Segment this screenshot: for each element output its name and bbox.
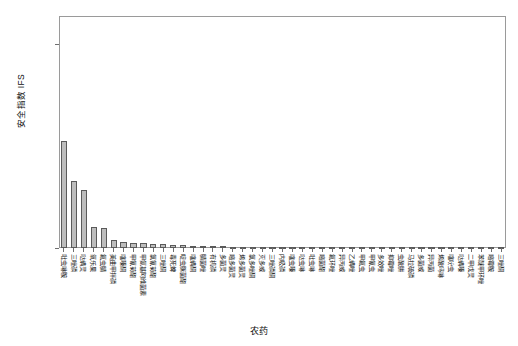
x-axis-tick-label: 氧乐果 [90, 254, 96, 272]
x-axis-tick-label: 氟虫腈 [100, 254, 106, 272]
x-axis-tick-mark [203, 248, 204, 252]
x-axis-tick-layer: 吡虫啉胺三唑磷哒螨灵氧乐果氟虫腈美曲甲拌磷噻嗪酮甲氰菊酯甲氨基阿维菌素氯氰菊酯三… [0, 0, 518, 346]
x-axis-tick-mark [103, 248, 104, 252]
chart-canvas: 0.00000.0005 安全指数 IFS 吡虫啉胺三唑磷哒螨灵氧乐果氟虫腈美曲… [0, 0, 518, 346]
x-axis-tick-mark [113, 248, 114, 252]
x-axis-tick-label: 氯多唑酮 [249, 254, 255, 278]
x-axis-tick-label: 哒螨嗪 [458, 254, 464, 272]
x-axis-tick-mark [352, 248, 353, 252]
x-axis-tick-label: 三唑酮 [160, 254, 166, 272]
x-axis-tick-mark [441, 248, 442, 252]
x-axis-tick-label: 多效唑 [378, 254, 384, 272]
x-axis-tick-label: 哒螨灵 [80, 254, 86, 272]
x-axis-tick-label: 甲氨基阿维菌素 [140, 254, 146, 296]
x-axis-tick-label: 苯醚甲环唑 [478, 254, 484, 284]
x-axis-tick-label: 灭多威 [259, 254, 265, 272]
x-axis-tick-mark [262, 248, 263, 252]
x-axis-tick-label: 多菌威 [418, 254, 424, 272]
x-axis-tick-label: 三唑磷酮 [269, 254, 275, 278]
y-axis-tick-mark [55, 44, 59, 45]
x-axis-tick-mark [252, 248, 253, 252]
x-axis-tick-label: 异丙威 [338, 254, 344, 272]
x-axis-tick-label: 吡虫啉 [309, 254, 315, 272]
x-axis-tick-mark [242, 248, 243, 252]
y-axis-tick-mark [55, 248, 59, 249]
x-axis-tick-label: 内吸磷 [279, 254, 285, 272]
x-axis-tick-label: 嘧多菌灵 [229, 254, 235, 278]
x-axis-tick-mark [193, 248, 194, 252]
x-axis-tick-label: 氟环唑 [329, 254, 335, 272]
x-axis-tick-label: 噻虫嗪 [289, 254, 295, 272]
x-axis-tick-label: 氯氰菊酯 [150, 254, 156, 278]
x-axis-tick-label: 马拉硫磷 [408, 254, 414, 278]
x-axis-tick-label: 多菌灵 [219, 254, 225, 272]
x-axis-tick-mark [302, 248, 303, 252]
x-axis-tick-label: 噻吩虫 [448, 254, 454, 272]
x-axis-tick-label: 烯多菌灵 [239, 254, 245, 278]
x-axis-tick-label: 腈菌唑 [199, 254, 205, 272]
x-axis-tick-mark [421, 248, 422, 252]
x-axis-tick-mark [481, 248, 482, 252]
x-axis-tick-label: 甲氟虫 [358, 254, 364, 272]
x-axis-tick-mark [63, 248, 64, 252]
x-axis-tick-mark [332, 248, 333, 252]
x-axis-tick-label: 异丙菌 [428, 254, 434, 272]
x-axis-tick-mark [371, 248, 372, 252]
x-axis-tick-mark [73, 248, 74, 252]
x-axis-tick-label: 啶虫脒菌酯 [180, 254, 186, 284]
x-axis-tick-label: 三唑酮 [497, 254, 503, 272]
x-axis-tick-mark [501, 248, 502, 252]
x-axis-tick-label: 虫酰肼 [398, 254, 404, 272]
x-axis-tick-mark [361, 248, 362, 252]
x-axis-tick-label: 美曲甲拌磷 [110, 254, 116, 284]
x-axis-tick-label: 三唑磷 [70, 254, 76, 272]
x-axis-tick-label: 抑霉唑 [388, 254, 394, 272]
x-axis-tick-mark [143, 248, 144, 252]
x-axis-tick-label: 乙螨唑 [348, 254, 354, 272]
x-axis-tick-mark [312, 248, 313, 252]
x-axis-tick-mark [282, 248, 283, 252]
x-axis-tick-mark [381, 248, 382, 252]
x-axis-tick-label: 毒死蜱 [170, 254, 176, 272]
x-axis-tick-label: 二甲戊灵 [468, 254, 474, 278]
x-axis-tick-label: 甲氰虫 [368, 254, 374, 272]
x-axis-tick-mark [342, 248, 343, 252]
x-axis-tick-label: 烯酰吗啉 [438, 254, 444, 278]
x-axis-tick-mark [222, 248, 223, 252]
x-axis-tick-mark [491, 248, 492, 252]
x-axis-tick-mark [292, 248, 293, 252]
x-axis-tick-label: 哒虫啉 [299, 254, 305, 272]
x-axis-tick-mark [401, 248, 402, 252]
x-axis-tick-mark [123, 248, 124, 252]
x-axis-tick-mark [212, 248, 213, 252]
x-axis-tick-mark [93, 248, 94, 252]
x-axis-tick-label: 甲氰菊酯 [130, 254, 136, 278]
x-axis-tick-mark [232, 248, 233, 252]
x-axis-tick-label: 噻螨酮 [189, 254, 195, 272]
x-axis-tick-label: 有机磷 [209, 254, 215, 272]
x-axis-tick-mark [153, 248, 154, 252]
x-axis-tick-label: 噻嗪酮 [120, 254, 126, 272]
x-axis-tick-mark [183, 248, 184, 252]
x-axis-tick-mark [451, 248, 452, 252]
x-axis-tick-mark [431, 248, 432, 252]
x-axis-tick-mark [391, 248, 392, 252]
x-axis-tick-mark [133, 248, 134, 252]
x-axis-tick-mark [83, 248, 84, 252]
x-axis-tick-mark [173, 248, 174, 252]
x-axis-tick-mark [461, 248, 462, 252]
x-axis-title: 农药 [0, 324, 518, 337]
x-axis-tick-mark [411, 248, 412, 252]
x-axis-tick-label: 吡虫啉胺 [60, 254, 66, 278]
x-axis-tick-label: 嘧菌酯 [319, 254, 325, 272]
x-axis-tick-mark [272, 248, 273, 252]
x-axis-tick-mark [163, 248, 164, 252]
x-axis-tick-mark [471, 248, 472, 252]
x-axis-tick-mark [322, 248, 323, 252]
x-axis-tick-label: 嘧霉胺 [487, 254, 493, 272]
